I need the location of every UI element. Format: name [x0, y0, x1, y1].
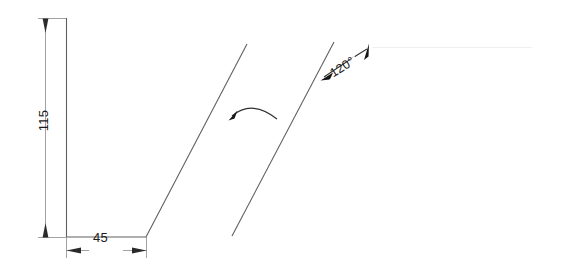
- rotation-arrow-arc: [232, 108, 277, 119]
- rotation-arrow-head: [229, 111, 238, 121]
- dim-text-gap-45: [89, 244, 123, 257]
- drawing-svg: [0, 0, 570, 269]
- dim-arrowhead-top: [43, 19, 49, 34]
- angle-arrowhead-upper: [364, 44, 369, 61]
- dim-arrowhead-right: [132, 248, 147, 254]
- profile-inclined-leg: [146, 44, 247, 237]
- technical-drawing-canvas: 115 45 120°: [0, 0, 570, 269]
- dim-arrowhead-bottom: [43, 223, 49, 238]
- dimension-label-height: 115: [36, 110, 51, 131]
- dim-arrowhead-left: [67, 248, 82, 254]
- dimension-label-width: 45: [93, 230, 108, 245]
- profile-inclined-leg-rotated: [232, 42, 334, 236]
